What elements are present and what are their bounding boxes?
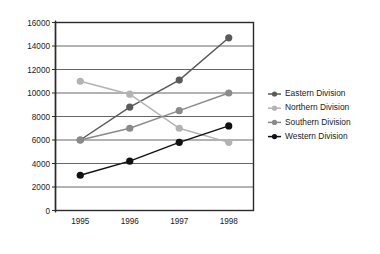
y-tick-label-16000: 16000 [27,19,50,28]
y-tick-label-10000: 10000 [27,89,50,98]
data-point [225,139,232,146]
line-chart: 0200040006000800010000120001400016000 19… [0,0,380,254]
x-tick-label-1997: 1997 [170,217,189,226]
data-point [176,125,183,132]
y-tick-label-0: 0 [45,207,50,216]
y-tick-label-12000: 12000 [27,66,50,75]
x-tick-label-1995: 1995 [71,217,90,226]
x-tick-label-1998: 1998 [220,217,239,226]
legend-marker [272,134,277,139]
y-tick-label-4000: 4000 [32,160,51,169]
chart-canvas: 0200040006000800010000120001400016000 19… [0,0,380,254]
legend-item-western-division[interactable]: Western Division [268,131,348,141]
y-tick-label-14000: 14000 [27,42,50,51]
gridlines [56,23,254,188]
x-tick-label-1996: 1996 [121,217,140,226]
legend-marker [272,106,277,111]
data-point [77,172,84,179]
legend-label: Southern Division [285,117,351,127]
data-point [225,89,232,96]
y-tick-label-6000: 6000 [32,136,51,145]
legend-item-southern-division[interactable]: Southern Division [268,117,351,127]
legend-item-eastern-division[interactable]: Eastern Division [268,88,346,98]
data-point [176,76,183,83]
legend-label: Western Division [285,131,348,141]
data-point [225,122,232,129]
legend-label: Northern Division [285,102,350,112]
series-eastern-division [77,34,233,143]
series-path [80,126,229,175]
legend-item-northern-division[interactable]: Northern Division [268,102,350,112]
y-tick-label-8000: 8000 [32,113,51,122]
legend-label: Eastern Division [285,88,346,98]
data-point [126,91,133,98]
data-point [176,139,183,146]
data-point [225,34,232,41]
data-point [126,158,133,165]
data-point [77,136,84,143]
chart-legend: Eastern DivisionNorthern DivisionSouther… [268,88,351,141]
series-western-division [77,122,233,179]
series-path [80,38,229,140]
x-axis-tick-labels: 1995199619971998 [71,217,238,226]
y-axis-tick-labels: 0200040006000800010000120001400016000 [27,19,55,216]
legend-marker [272,120,277,125]
data-point [126,104,133,111]
series-lines [77,34,233,179]
data-point [77,78,84,85]
data-point [126,125,133,132]
data-point [176,107,183,114]
legend-marker [272,91,277,96]
y-tick-label-2000: 2000 [32,183,51,192]
